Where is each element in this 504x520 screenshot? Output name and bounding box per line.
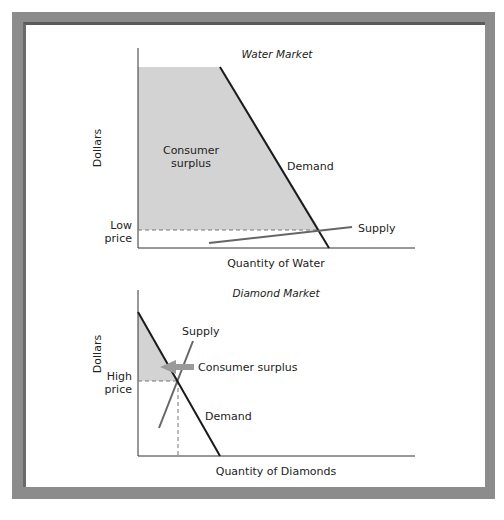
figure-canvas: Water Market Dollars Consumer surplus De… [0,0,504,520]
water-y-label: Dollars [91,129,104,168]
diamond-demand-label: Demand [205,410,252,423]
diamond-market-chart: Diamond Market Dollars Supply Consumer s… [91,287,415,478]
water-demand-label: Demand [287,160,334,173]
water-surplus-label-1: Consumer [163,144,220,157]
diamond-surplus-label: Consumer surplus [198,361,298,374]
water-surplus-label-2: surplus [171,157,211,170]
diamond-supply-label: Supply [182,325,220,338]
diamond-x-label: Quantity of Diamonds [216,465,337,478]
water-x-label: Quantity of Water [227,257,325,270]
water-title: Water Market [242,48,314,60]
diamond-price-label-1: High [107,370,132,383]
water-price-label-2: price [105,232,133,245]
water-supply-label: Supply [358,222,396,235]
water-price-label-1: Low [110,219,132,232]
diamond-price-label-2: price [105,383,133,396]
diamond-title: Diamond Market [232,287,320,299]
diamond-supply-curve [159,341,193,428]
water-market-chart: Water Market Dollars Consumer surplus De… [91,48,415,270]
diamond-y-label: Dollars [91,335,104,374]
